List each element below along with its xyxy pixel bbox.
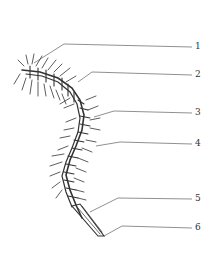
label-1: 1 <box>195 42 201 51</box>
label-6: 6 <box>195 223 201 232</box>
label-2: 2 <box>195 70 201 79</box>
antenna-drawing <box>14 54 104 236</box>
label-5: 5 <box>195 194 201 203</box>
label-4: 4 <box>195 139 201 148</box>
leader-lines <box>34 44 192 236</box>
label-3: 3 <box>195 108 201 117</box>
antenna-diagram <box>0 0 212 255</box>
